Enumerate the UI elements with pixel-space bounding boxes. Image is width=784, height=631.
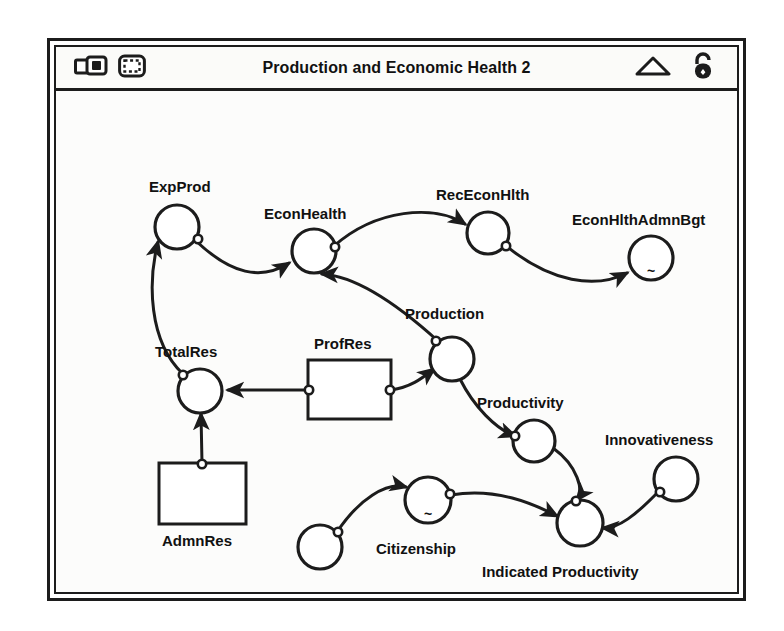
stock-label-profres: ProfRes [314, 335, 372, 352]
connector-expprod-to-econhealth[interactable] [196, 241, 289, 273]
connector-productivity-to-indprod[interactable] [553, 448, 580, 500]
connector-port-5[interactable] [305, 386, 313, 394]
connector-port-0[interactable] [194, 235, 202, 243]
connector-port-6[interactable] [386, 386, 394, 394]
converter-label-receconhlth: RecEconHlth [436, 186, 529, 203]
converter-econhealth[interactable] [292, 229, 336, 273]
converter-label-expprod: ExpProd [149, 178, 211, 195]
converter-label-econhealth: EconHealth [264, 205, 347, 222]
map-model-toggle-icon[interactable] [74, 55, 108, 81]
stock-label-admnres: AdmnRes [162, 532, 232, 549]
triangle-icon[interactable] [635, 55, 671, 81]
stock-admnres[interactable] [159, 463, 246, 524]
connector-port-3[interactable] [502, 242, 510, 250]
connector-port-8[interactable] [511, 432, 519, 440]
stock-and-flow-diagram: ~~ ProfResAdmnResExpProdEconHealthRecEco… [56, 91, 737, 592]
selection-marquee-icon[interactable] [118, 54, 146, 82]
graphical-function-glyph-econhlthadmnbgt: ~ [647, 263, 655, 279]
connector-port-2[interactable] [331, 243, 339, 251]
graphical-function-glyph-citizenship: ~ [424, 506, 432, 522]
connector-citizenship-to-indprod[interactable] [451, 493, 557, 516]
connector-port-4[interactable] [432, 337, 440, 345]
converter-expprod[interactable] [155, 205, 199, 249]
converter-label-production: Production [405, 305, 484, 322]
connector-port-11[interactable] [446, 490, 454, 498]
stock-profres[interactable] [308, 360, 391, 419]
connector-port-7[interactable] [198, 460, 206, 468]
connector-port-10[interactable] [656, 488, 664, 496]
diagram-canvas[interactable]: ~~ ProfResAdmnResExpProdEconHealthRecEco… [56, 91, 737, 592]
converter-productivity[interactable] [513, 420, 555, 462]
converter-label-innovativeness: Innovativeness [605, 431, 713, 448]
model-window: Production and Economic Health 2 [47, 38, 746, 601]
connector-innovativeness-to-indprod[interactable] [603, 491, 659, 528]
converter-label-econhlthadmnbgt: EconHlthAdmnBgt [572, 211, 705, 228]
converter-label-citizenship: Citizenship [376, 540, 456, 557]
connector-econhealth-to-receconhlth[interactable] [334, 212, 465, 246]
connector-port-12[interactable] [334, 528, 342, 536]
connector-authoritarianism-to-citizenship[interactable] [337, 486, 406, 532]
connector-profres-to-production[interactable] [391, 369, 434, 390]
connector-port-9[interactable] [572, 497, 580, 505]
unlocked-padlock-icon[interactable] [691, 52, 715, 84]
model-window-inner-frame: Production and Economic Health 2 [54, 45, 739, 594]
converter-label-indprod: Indicated Productivity [482, 563, 639, 580]
converter-label-productivity: Productivity [477, 394, 564, 411]
connector-admnres-to-totalres[interactable] [201, 414, 202, 463]
connector-port-1[interactable] [179, 371, 187, 379]
label-layer: ProfResAdmnResExpProdEconHealthRecEconHl… [149, 178, 713, 592]
converter-label-totalres: TotalRes [155, 343, 217, 360]
connector-receconhlth-to-econhlthadmnbgt[interactable] [505, 245, 627, 281]
title-bar-right-tools [635, 52, 715, 84]
title-bar: Production and Economic Health 2 [56, 47, 737, 91]
title-bar-left-tools [74, 54, 146, 82]
converter-indprod[interactable] [557, 500, 603, 546]
